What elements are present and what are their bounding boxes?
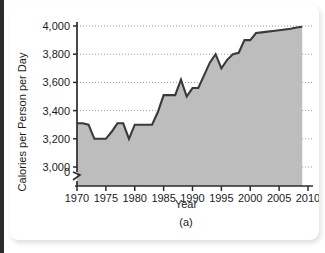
x-tick-label: 1980 — [123, 192, 147, 204]
y-tick-label: 4,000 — [42, 20, 70, 32]
y-axis-ticks: 3,0003,2003,4003,6003,8004,000 — [42, 20, 77, 173]
x-tick-label: 1970 — [65, 192, 89, 204]
chart-figure: Calories per Person per Day 3,0003,2003,… — [9, 4, 319, 240]
x-tick-label: 2010 — [296, 192, 319, 204]
y-axis-zero-label: 0 — [64, 166, 70, 178]
y-tick-label: 3,600 — [42, 76, 70, 88]
x-tick-label: 2000 — [238, 192, 262, 204]
page-gutter-inner — [4, 0, 7, 253]
y-tick-label: 3,400 — [42, 105, 70, 117]
y-tick-label: 3,800 — [42, 48, 70, 60]
x-tick-label: 1975 — [94, 192, 118, 204]
figure-caption: (a) — [179, 216, 192, 228]
x-axis-title: Year — [175, 198, 198, 210]
y-tick-label: 3,200 — [42, 133, 70, 145]
x-tick-label: 1995 — [209, 192, 233, 204]
area-fill — [77, 27, 302, 186]
area-chart: Calories per Person per Day 3,0003,2003,… — [9, 4, 319, 240]
y-axis-title: Calories per Person per Day — [16, 52, 28, 191]
x-tick-label: 2005 — [267, 192, 291, 204]
x-tick-label: 1985 — [151, 192, 175, 204]
